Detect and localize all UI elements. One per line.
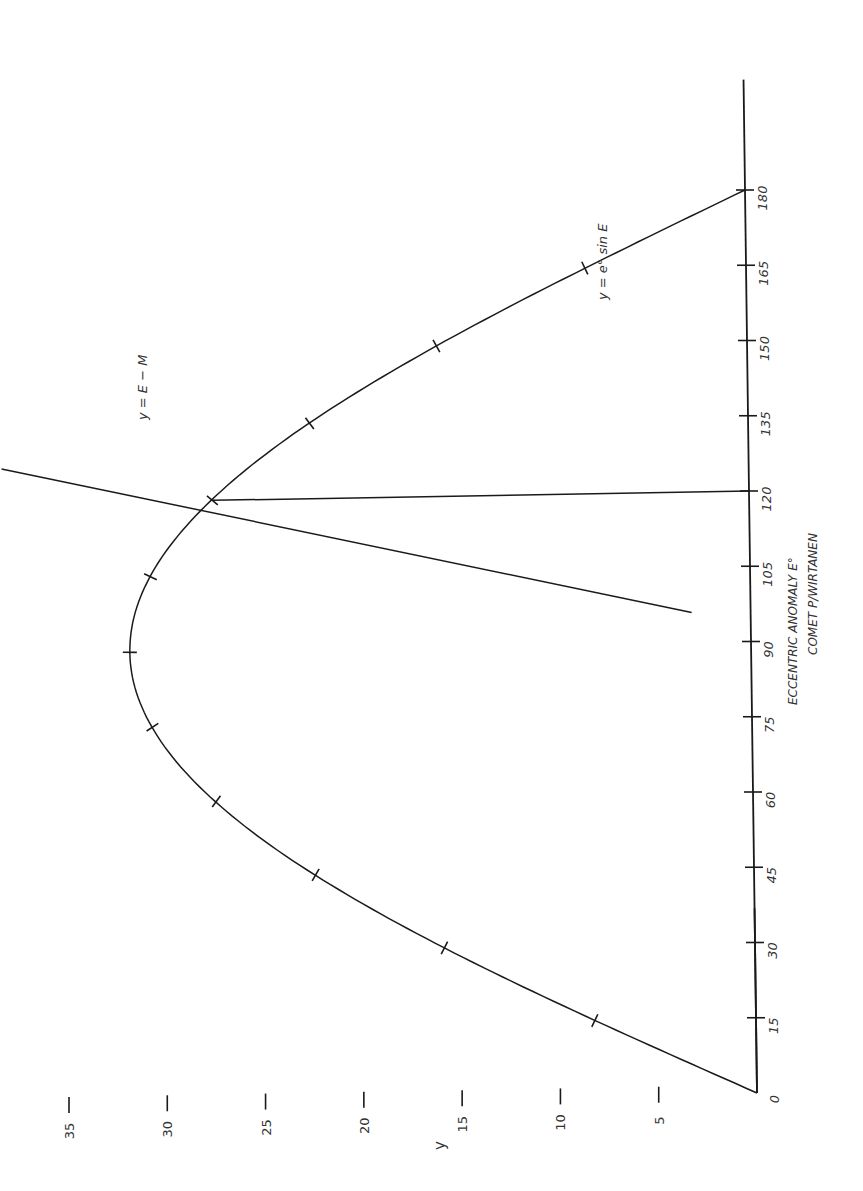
x-axis-subtitle: COMET P/WIRTANEN [806, 533, 820, 655]
intersection-drop-line [212, 491, 749, 500]
curve-label: y = e° sin E [595, 223, 610, 301]
e-axis-tick-label: 90 [761, 641, 776, 658]
chart: 0153045607590105120135150165180510152025… [0, 0, 863, 1191]
e-axis-tick-label: 180 [755, 186, 770, 211]
e-axis-tick-label: 15 [766, 1017, 781, 1034]
e-axis-tick-label: 0 [767, 1095, 782, 1103]
curve-point-mark [433, 340, 440, 352]
y-axis-tick-label: 30 [160, 1121, 175, 1138]
e-axis-tick-label: 75 [762, 716, 777, 733]
axes [744, 80, 757, 1093]
e-minus-m-line [2, 469, 692, 613]
axis-ticks: 0153045607590105120135150165180510152025… [62, 186, 782, 1140]
y-axis-tick-label: 5 [652, 1117, 667, 1125]
e-axis-tick-label: 30 [765, 942, 780, 959]
curve-point-mark [312, 869, 319, 881]
e-axis-tick-label: 165 [756, 261, 771, 286]
plot-area [2, 190, 757, 1093]
e-axis-tick-label: 120 [759, 487, 774, 512]
y-axis-line [755, 908, 757, 1093]
y-axis-tick-label: 35 [62, 1123, 77, 1140]
y-axis-tick-label: 15 [455, 1116, 470, 1133]
sine-curve [130, 190, 757, 1093]
curve-point-mark [147, 723, 159, 731]
y-axis-tick-label: 20 [357, 1118, 372, 1135]
e-axis-tick-label: 150 [757, 336, 772, 361]
e-axis-tick-label: 135 [758, 411, 773, 436]
x-axis-title: ECCENTRIC ANOMALY E° [786, 557, 800, 705]
curve-point-mark [305, 418, 313, 429]
e-axis-tick-label: 45 [764, 867, 779, 884]
curve-point-mark [441, 942, 447, 954]
y-axis-title: y [431, 1141, 449, 1150]
e-axis-tick-label: 60 [763, 792, 778, 809]
y-axis-tick-label: 10 [553, 1114, 568, 1131]
labels: y = e° sin E y = E − M ECCENTRIC ANOMALY… [135, 223, 820, 1150]
line-label: y = E − M [135, 355, 150, 421]
e-axis-tick-label: 105 [760, 562, 775, 587]
y-axis-tick-label: 25 [259, 1119, 274, 1136]
